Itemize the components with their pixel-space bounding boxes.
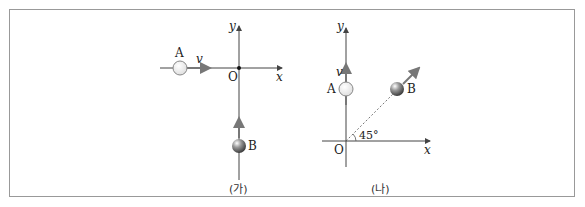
x-axis-label: x xyxy=(424,143,431,157)
ball-b-label: B xyxy=(407,82,416,96)
velocity-label: v xyxy=(196,52,203,66)
angle-label: 45° xyxy=(359,129,379,142)
origin-label: O xyxy=(228,70,238,84)
ball-b xyxy=(390,82,404,96)
ball-a-label: A xyxy=(175,46,184,60)
x-axis-label: x xyxy=(276,70,283,84)
caption-ga: (가) xyxy=(229,180,248,196)
caption-na: (나) xyxy=(371,180,390,196)
y-axis-label: y xyxy=(229,19,236,33)
diagram-canvas xyxy=(0,0,585,207)
angle-arc xyxy=(353,134,356,141)
ball-b xyxy=(232,139,246,153)
ball-a xyxy=(173,61,187,75)
ball-a xyxy=(339,82,353,96)
ball-b-label: B xyxy=(248,139,257,153)
y-axis-label: y xyxy=(337,19,344,33)
velocity-label: v xyxy=(336,65,343,79)
ball-a-label: A xyxy=(327,82,336,96)
origin-label: O xyxy=(334,143,344,157)
